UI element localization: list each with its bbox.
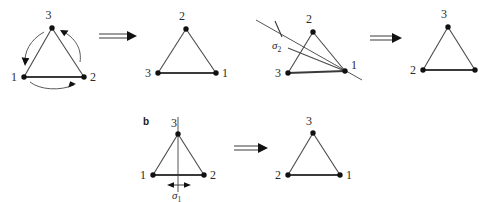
vertex-label-bottom-right: 1 [222,66,228,80]
vertex-label-bottom-left: 2 [275,168,281,182]
vertex-top [183,26,188,31]
panel-a-step4-reflected-triangle: 3 2 [410,7,478,77]
edge-top-right [186,29,216,73]
vertex-label-bottom-right: 2 [210,168,216,182]
sigma1-label: σ1 [172,189,181,202]
edge-top-left [423,27,448,70]
edge-top-right [448,27,475,70]
vertex-label-bottom-left: 3 [145,66,151,80]
vertex-label-top: 3 [46,8,52,22]
vertex-bottom-right [337,172,342,177]
vertex-top [49,25,54,30]
vertex-top [310,130,315,135]
vertex-label-top: 3 [441,7,447,21]
vertex-bottom-left [285,70,290,75]
vertex-bottom-left [150,172,155,177]
edge-top-left [288,133,313,175]
sigma2-label: σ2 [272,39,281,54]
vertex-label-bottom-left: 1 [11,70,17,84]
edge-3-2 [52,28,84,77]
vertex-label-top: 2 [179,9,185,23]
implies-arrow-2 [370,33,402,43]
panel-b-label: b [143,116,149,127]
edge-top-right [178,134,204,175]
edge-base [288,71,345,73]
vertex-bottom-right [81,74,86,79]
vertex-top [445,24,450,29]
vertex-bottom-right [472,67,477,72]
vertex-label-bottom-left: 2 [410,63,416,77]
rotation-arrow-2-to-3 [60,30,80,62]
vertex-bottom-left [155,70,160,75]
symmetry-operations-figure: 3 1 2 2 3 1 [0,0,479,202]
vertex-label-bottom-left: 1 [140,168,146,182]
panel-a-step1-initial-triangle: 3 1 2 [11,8,96,89]
vertex-label-bottom-right: 1 [346,168,352,182]
vertex-label-bottom-left: 3 [275,66,281,80]
edge-top-left [158,29,186,73]
panel-a-step3-mirror-triangle: 2 3 1 σ2 [256,12,362,80]
vertex-label-top: 3 [171,116,177,130]
vertex-label-bottom-right: 1 [351,58,357,72]
vertex-top [310,29,315,34]
edge-top-left [153,134,178,175]
panel-a-step2-rotated-triangle: 2 3 1 [145,9,228,80]
implies-arrow-3 [234,143,268,153]
edge-top-right [313,32,345,71]
vertex-bottom-left [285,172,290,177]
vertex-bottom-right [342,68,347,73]
rotation-arrow-1-to-2 [30,81,76,89]
vertex-label-bottom-right: 2 [90,70,96,84]
edge-top-right [313,133,340,175]
panel-b-step1-initial-triangle: 3 1 2 σ1 [140,116,216,202]
vertex-label-top: 3 [306,114,312,128]
vertex-label-top: 2 [306,12,312,26]
implies-arrow-1 [99,31,137,41]
vertex-bottom-right [201,172,206,177]
vertex-top [175,131,180,136]
figure-canvas: 3 1 2 2 3 1 [0,0,479,202]
vertex-bottom-left [420,67,425,72]
vertex-bottom-left [21,74,26,79]
edge-3-1 [24,28,52,77]
vertex-bottom-right [213,70,218,75]
panel-b-step2-reflected-triangle: 3 2 1 [275,114,352,182]
sigma1-double-arrow [167,182,191,188]
mirror-tick-mark [275,21,282,37]
